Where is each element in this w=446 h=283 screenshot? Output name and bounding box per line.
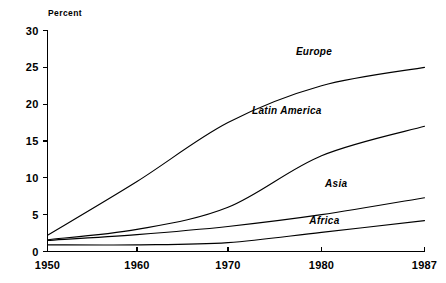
y-tick-label: 25 xyxy=(26,61,39,73)
y-tick-label: 15 xyxy=(26,135,39,147)
series-lines xyxy=(48,67,425,245)
y-tick-label: 10 xyxy=(26,172,39,184)
x-tick-label: 1950 xyxy=(35,259,60,271)
chart-container: 051015202530 19501960197019801987 Europe… xyxy=(0,0,446,283)
x-tick-labels: 19501960197019801987 xyxy=(35,259,437,271)
x-tick-label: 1980 xyxy=(309,259,334,271)
series-line-latin-america xyxy=(48,126,425,239)
x-tick-label: 1987 xyxy=(412,259,437,271)
series-labels: EuropeLatin AmericaAsiaAfrica xyxy=(252,46,347,226)
y-tick-label: 0 xyxy=(32,246,38,258)
y-tick-label: 5 xyxy=(32,209,38,221)
series-line-africa xyxy=(48,221,425,245)
x-tick-label: 1970 xyxy=(215,259,240,271)
x-tick-label: 1960 xyxy=(124,259,149,271)
series-label-latin-america: Latin America xyxy=(252,105,322,116)
y-tick-labels: 051015202530 xyxy=(26,25,39,258)
series-label-africa: Africa xyxy=(308,215,339,226)
series-line-europe xyxy=(48,67,425,235)
y-tick-label: 20 xyxy=(26,98,39,110)
series-label-asia: Asia xyxy=(324,178,347,189)
y-tick-label: 30 xyxy=(26,25,39,37)
line-chart: 051015202530 19501960197019801987 Europe… xyxy=(0,0,446,283)
series-label-europe: Europe xyxy=(296,46,332,57)
y-axis-title: Percent xyxy=(48,8,82,18)
